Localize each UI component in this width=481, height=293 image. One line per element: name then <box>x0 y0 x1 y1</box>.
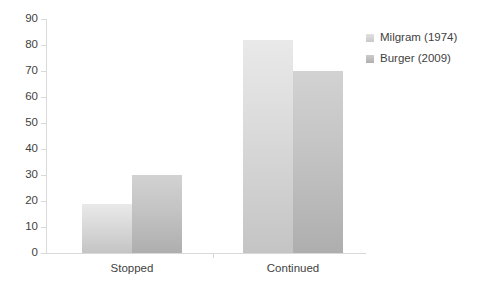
bar-milgram-stopped <box>82 204 132 253</box>
y-axis-labels: 90 80 70 60 50 40 30 20 10 0 <box>0 0 38 293</box>
y-axis-label-70: 70 <box>4 65 38 77</box>
y-axis-label-40: 40 <box>4 143 38 155</box>
legend-item-burger[interactable]: Burger (2009) <box>366 49 481 68</box>
x-axis-line <box>41 253 366 254</box>
y-axis-label-80: 80 <box>4 39 38 51</box>
y-axis-label-50: 50 <box>4 117 38 129</box>
legend-swatch-icon-burger <box>366 55 374 63</box>
y-axis-label-30: 30 <box>4 169 38 181</box>
y-axis-label-10: 10 <box>4 221 38 233</box>
legend: Milgram (1974) Burger (2009) <box>366 28 481 70</box>
bar-chart: 90 80 70 60 50 40 30 20 10 0 Stopped Con… <box>0 0 481 293</box>
bar-milgram-continued <box>243 40 293 253</box>
y-axis-label-0: 0 <box>4 247 38 259</box>
legend-label-milgram: Milgram (1974) <box>380 31 457 44</box>
plot-area <box>46 19 366 253</box>
bar-burger-stopped <box>132 175 182 253</box>
legend-label-burger: Burger (2009) <box>380 52 451 65</box>
x-axis-category-label-stopped: Stopped <box>82 262 182 275</box>
bar-burger-continued <box>293 71 343 253</box>
y-axis-label-60: 60 <box>4 91 38 103</box>
legend-swatch-icon-milgram <box>366 34 374 42</box>
x-axis-category-separator-tick <box>213 253 214 258</box>
y-axis-label-20: 20 <box>4 195 38 207</box>
legend-item-milgram[interactable]: Milgram (1974) <box>366 28 481 47</box>
y-axis-label-90: 90 <box>4 13 38 25</box>
x-axis-category-label-continued: Continued <box>243 262 343 275</box>
